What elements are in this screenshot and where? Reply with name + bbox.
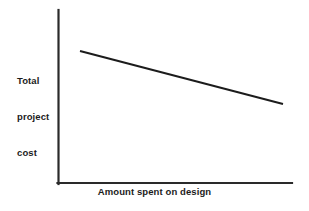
chart-figure: Total project cost Amount spent on desig… xyxy=(0,0,309,211)
y-axis-label-line-1: Total xyxy=(17,75,49,87)
y-axis-label-line-2: project xyxy=(17,111,49,123)
y-axis-label-line-3: cost xyxy=(17,147,49,159)
y-axis-label: Total project cost xyxy=(17,51,49,183)
x-axis-label: Amount spent on design xyxy=(0,186,309,198)
